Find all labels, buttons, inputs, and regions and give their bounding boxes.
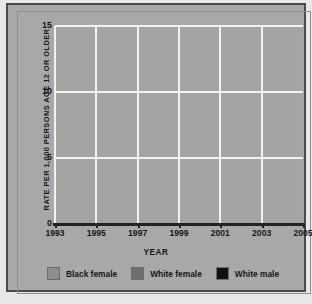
y-tick-0: 0 (36, 218, 52, 228)
gridline-x-1999 (178, 26, 180, 224)
chart-legend: Black female White female White male (32, 267, 294, 280)
chart-screenshot: RATE PER 1,000 PERSONS AGE 12 OR OLDER 1… (0, 0, 312, 304)
x-tick-label-1993: 1993 (45, 228, 64, 238)
x-tick-label-1999: 1999 (169, 228, 188, 238)
gridline-x-1995 (95, 26, 97, 224)
x-tick-label-2003: 2003 (252, 228, 271, 238)
legend-label-white-male: White male (235, 269, 279, 279)
x-tick-label-1995: 1995 (87, 228, 106, 238)
legend-swatch-white-male (216, 267, 229, 280)
gridline-x-2003 (261, 26, 263, 224)
gridline-x-2001 (219, 26, 221, 224)
y-tick-10: 10 (36, 86, 52, 96)
legend-item-white-male[interactable]: White male (216, 267, 279, 280)
x-tick-label-2005: 2005 (293, 228, 312, 238)
gridline-x-1997 (137, 26, 139, 224)
legend-swatch-black-female (47, 267, 60, 280)
chart-panel: RATE PER 1,000 PERSONS AGE 12 OR OLDER 1… (6, 3, 306, 292)
plot-area (55, 26, 303, 224)
legend-swatch-white-female (131, 267, 144, 280)
gridline-x-1993 (54, 26, 56, 224)
y-axis-tick-labels: 15 10 5 0 (30, 5, 52, 245)
legend-item-black-female[interactable]: Black female (47, 267, 117, 280)
x-axis-title: YEAR (8, 248, 304, 257)
legend-item-white-female[interactable]: White female (131, 267, 202, 280)
x-tick-label-1997: 1997 (128, 228, 147, 238)
legend-label-white-female: White female (150, 269, 202, 279)
y-tick-15: 15 (36, 20, 52, 30)
legend-label-black-female: Black female (66, 269, 117, 279)
y-tick-5: 5 (36, 152, 52, 162)
x-tick-label-2001: 2001 (211, 228, 230, 238)
